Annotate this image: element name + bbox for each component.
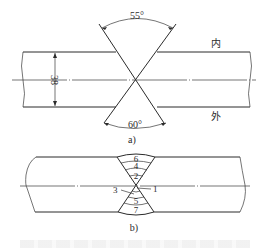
figure-a: 55° 60° 38 内 外 a) xyxy=(12,10,256,146)
leader-pass-1 xyxy=(137,188,151,189)
pass-label-3: 3 xyxy=(113,185,118,195)
inner-side-label: 内 xyxy=(211,37,221,49)
pass-label-2: 2 xyxy=(134,171,139,181)
arrow-head xyxy=(53,101,57,106)
groove-line-2 xyxy=(104,24,176,123)
weld-joint-diagram: 55° 60° 38 内 外 a) xyxy=(0,0,265,250)
figure-a-caption: a) xyxy=(128,134,136,146)
top-angle-label: 55° xyxy=(130,10,144,21)
thickness-label: 38 xyxy=(49,75,60,85)
groove-line-1 xyxy=(99,24,164,123)
pass-label-7: 7 xyxy=(134,205,139,215)
outer-side-label: 外 xyxy=(211,111,221,122)
break-line-left-b xyxy=(26,157,36,212)
arrow-head xyxy=(53,53,57,58)
figure-b: 6 4 2 5 7 1 3 b) xyxy=(20,154,250,234)
pass-boundary xyxy=(132,191,140,192)
bottom-angle-label: 60° xyxy=(128,119,142,130)
faint-caption-text xyxy=(20,240,250,248)
figure-b-caption: b) xyxy=(130,222,138,234)
pass-label-4: 4 xyxy=(134,161,139,171)
pass-label-1: 1 xyxy=(153,184,158,194)
break-line-right-b xyxy=(240,157,245,212)
break-line-left-a xyxy=(22,52,25,107)
break-line-right-a xyxy=(249,52,252,107)
